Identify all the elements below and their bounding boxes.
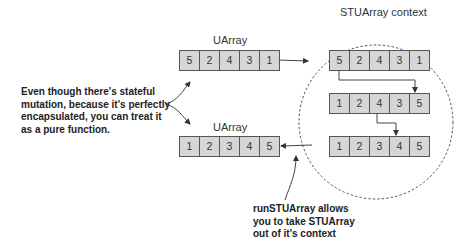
array-cell: 3 [219, 136, 240, 157]
bottom-note-arrow [285, 156, 296, 200]
swap-arrow-2 [377, 113, 396, 135]
array-cell: 5 [259, 136, 280, 157]
context-label: STUArray context [340, 6, 427, 18]
swap-arrow-1 [339, 70, 415, 92]
array-cell: 2 [349, 136, 370, 157]
array-cell: 4 [369, 93, 390, 114]
array-cell: 1 [329, 136, 350, 157]
array-cell: 4 [369, 50, 390, 71]
left-note: Even though there's stateful mutation, b… [21, 86, 170, 136]
note-line: as a pure function. [21, 124, 170, 137]
array-cell: 1 [329, 93, 350, 114]
array-cell: 1 [409, 50, 430, 71]
uarray-top: 5 2 4 3 1 [179, 50, 280, 70]
note-line: runSTUArray allows [253, 203, 355, 216]
array-cell: 3 [389, 50, 410, 71]
array-cell: 2 [199, 50, 220, 71]
array-cell: 4 [239, 136, 260, 157]
context-array-1: 5 2 4 3 1 [329, 50, 430, 70]
array-cell: 3 [389, 93, 410, 114]
array-cell: 4 [389, 136, 410, 157]
note-line: you to take STUArray [253, 216, 355, 229]
uarray-bottom-label: UArray [213, 121, 247, 133]
array-cell: 2 [349, 50, 370, 71]
array-cell: 5 [329, 50, 350, 71]
uarray-top-label: UArray [213, 34, 247, 46]
array-cell: 3 [239, 50, 260, 71]
array-cell: 3 [369, 136, 390, 157]
arrow-into-context [277, 60, 308, 61]
arrow-out-of-context [281, 145, 312, 146]
array-cell: 5 [179, 50, 200, 71]
array-cell: 2 [349, 93, 370, 114]
array-cell: 5 [409, 136, 430, 157]
array-cell: 4 [219, 50, 240, 71]
note-line: Even though there's stateful [21, 86, 170, 99]
array-cell: 1 [259, 50, 280, 71]
context-array-2: 1 2 4 3 5 [329, 93, 430, 113]
array-cell: 5 [409, 93, 430, 114]
note-line: encapsulated, you can treat it [21, 111, 170, 124]
note-line: out of it's context [253, 228, 355, 241]
array-cell: 1 [179, 136, 200, 157]
uarray-bottom: 1 2 3 4 5 [179, 136, 280, 156]
context-array-3: 1 2 3 4 5 [329, 136, 430, 156]
array-cell: 2 [199, 136, 220, 157]
bottom-note: runSTUArray allows you to take STUArray … [253, 203, 355, 241]
note-line: mutation, because it's perfectly [21, 99, 170, 112]
